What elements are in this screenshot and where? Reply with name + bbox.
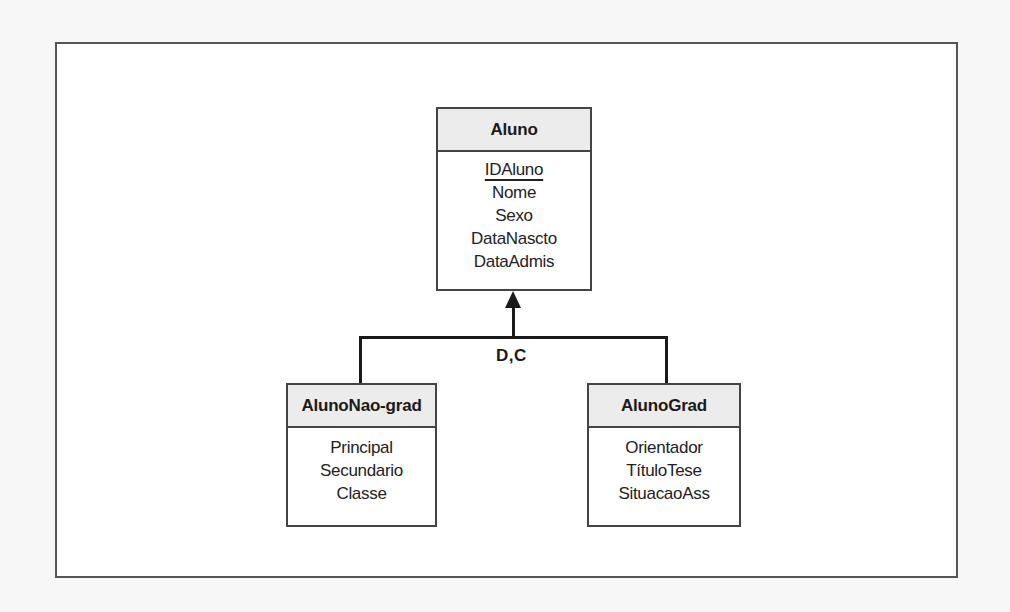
attribute-situacaoass: SituacaoAss: [618, 482, 709, 505]
entity-aluno-grad[interactable]: AlunoGrad Orientador TítuloTese Situacao…: [587, 383, 741, 527]
entity-aluno-nao-grad-header: AlunoNao-grad: [288, 385, 435, 428]
attribute-orientador: Orientador: [625, 436, 702, 459]
attribute-datanascto: DataNascto: [471, 227, 557, 250]
attribute-sexo: Sexo: [495, 204, 533, 227]
attribute-nome: Nome: [492, 181, 536, 204]
attribute-secundario: Secundario: [320, 459, 403, 482]
entity-aluno-header: Aluno: [438, 109, 590, 152]
entity-aluno-nao-grad[interactable]: AlunoNao-grad Principal Secundario Class…: [286, 383, 437, 527]
entity-aluno-grad-attributes: Orientador TítuloTese SituacaoAss: [589, 428, 739, 505]
entity-aluno[interactable]: Aluno IDAluno Nome Sexo DataNascto DataA…: [436, 107, 592, 291]
attribute-idaluno: IDAluno: [485, 158, 543, 181]
entity-aluno-title: Aluno: [490, 120, 537, 140]
entity-aluno-grad-title: AlunoGrad: [621, 396, 707, 416]
connector-drop-left: [359, 336, 362, 384]
entity-aluno-nao-grad-title: AlunoNao-grad: [301, 396, 421, 416]
connector-horizontal-bar: [359, 336, 668, 339]
entity-aluno-attributes: IDAluno Nome Sexo DataNascto DataAdmis: [438, 152, 590, 273]
attribute-dataadmis: DataAdmis: [474, 250, 554, 273]
attribute-titulotese: TítuloTese: [626, 459, 701, 482]
connector-stem: [512, 306, 515, 339]
entity-aluno-grad-header: AlunoGrad: [589, 385, 739, 428]
attribute-principal: Principal: [330, 436, 393, 459]
connector-drop-right: [665, 336, 668, 384]
entity-aluno-nao-grad-attributes: Principal Secundario Classe: [288, 428, 435, 505]
attribute-classe: Classe: [336, 482, 386, 505]
specialization-constraint-label: D,C: [496, 346, 527, 366]
